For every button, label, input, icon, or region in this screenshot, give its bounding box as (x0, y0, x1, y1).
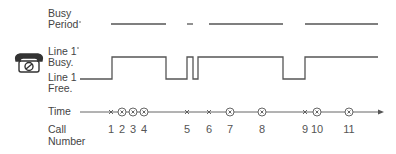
blocked-marker-10 (313, 108, 321, 116)
diagram-canvas (0, 0, 396, 154)
call-number: 3 (130, 123, 136, 135)
line-state-waveform (80, 57, 378, 79)
call-markers (109, 108, 353, 116)
blocked-marker-4 (140, 108, 148, 116)
blocked-marker-7 (226, 108, 234, 116)
blocked-marker-8 (258, 108, 266, 116)
blocked-marker-3 (129, 108, 137, 116)
call-number: 5 (184, 123, 190, 135)
call-number: 11 (343, 123, 354, 135)
call-number: 4 (141, 123, 147, 135)
blocked-marker-2 (118, 108, 126, 116)
call-number: 7 (227, 123, 233, 135)
call-number: 10 (311, 123, 323, 135)
telephone-icon (16, 54, 43, 72)
call-number: 2 (119, 123, 125, 135)
call-number: 6 (206, 123, 212, 135)
call-number: 9 (302, 123, 308, 135)
call-number: 1 (108, 123, 114, 135)
blocked-marker-11 (345, 108, 353, 116)
call-number: 8 (259, 123, 265, 135)
